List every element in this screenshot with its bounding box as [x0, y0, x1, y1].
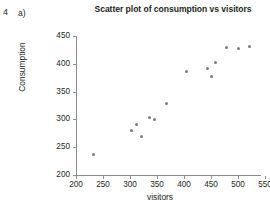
scatter-point [165, 102, 168, 105]
y-tick-label-text: 400 [46, 60, 70, 68]
x-tick-label: 250 [88, 180, 118, 189]
y-tick-mark [73, 36, 76, 37]
scatter-point [148, 116, 151, 119]
x-tick-label: 400 [169, 180, 199, 189]
x-tick-mark [211, 176, 212, 179]
page-root: 4 a) Scatter plot of consumption vs visi… [0, 0, 270, 208]
y-tick-label: 450 [44, 32, 70, 40]
scatter-point [185, 70, 188, 73]
x-tick-mark [238, 176, 239, 179]
scatter-point [225, 46, 228, 49]
x-tick-mark [184, 176, 185, 179]
y-tick-label: 200 [44, 171, 70, 179]
y-tick-label-text: 350 [46, 88, 70, 96]
y-axis-line [76, 36, 77, 176]
scatter-point [206, 67, 209, 70]
y-axis-title: Consumption [17, 32, 27, 102]
y-tick-mark [73, 64, 76, 65]
y-tick-label-text: 250 [46, 143, 70, 151]
scatter-point [140, 135, 143, 138]
y-tick-mark [73, 119, 76, 120]
y-tick-label-text: 200 [46, 171, 70, 179]
scatter-point [135, 123, 138, 126]
y-tick-mark [73, 147, 76, 148]
y-tick-mark [73, 92, 76, 93]
scatter-point [214, 61, 217, 64]
y-tick-label: 400 [44, 60, 70, 68]
scatter-point [210, 75, 213, 78]
scatter-point [92, 153, 95, 156]
y-tick-label: 350 [44, 88, 70, 96]
x-tick-mark [103, 176, 104, 179]
scatter-point [248, 45, 251, 48]
x-tick-label: 450 [196, 180, 226, 189]
y-tick-label: 300 [44, 115, 70, 123]
y-tick-label-text: 450 [46, 32, 70, 40]
x-tick-label: 500 [223, 180, 253, 189]
x-tick-mark [157, 176, 158, 179]
x-tick-label: 300 [115, 180, 145, 189]
y-tick-label-text: 300 [46, 115, 70, 123]
scatter-point [153, 118, 156, 121]
x-tick-mark [265, 176, 266, 179]
x-tick-label: 550 [250, 180, 270, 189]
y-tick-label: 250 [44, 143, 70, 151]
x-tick-label: 350 [142, 180, 172, 189]
x-tick-mark [76, 176, 77, 179]
x-axis-title: visitors [60, 192, 260, 202]
scatter-point [130, 129, 133, 132]
scatter-point [237, 47, 240, 50]
scatter-plot: 200250300350400450 200250300350400450500… [0, 0, 270, 208]
x-tick-mark [130, 176, 131, 179]
x-tick-label: 200 [61, 180, 91, 189]
